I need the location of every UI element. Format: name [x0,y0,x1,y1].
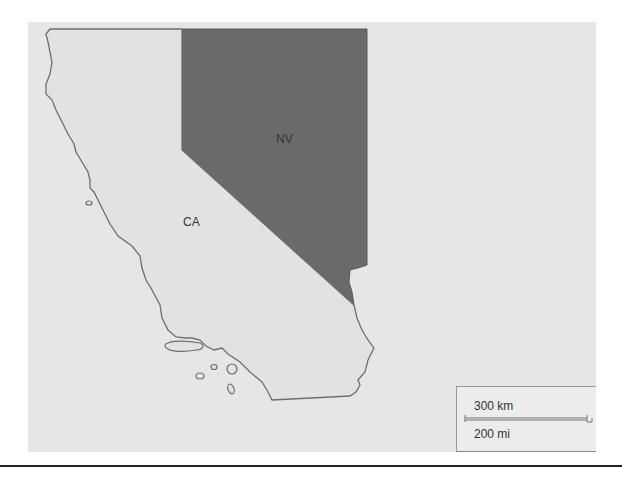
divider-line [0,465,622,467]
island-santa-barbara [211,365,217,370]
state-label-nv: NV [276,132,293,146]
island-channel-north [165,341,203,351]
scale-ruler-icon [463,414,593,424]
island-san-clemente [226,383,235,394]
island-farallon [86,201,92,205]
scale-imperial-label: 200 mi [474,427,510,441]
island-san-nicolas [196,373,204,379]
scale-metric-label: 300 km [474,399,513,413]
scale-bar: 300 km 200 mi [456,386,596,452]
state-label-ca: CA [183,215,200,229]
island-santa-catalina [227,364,237,374]
